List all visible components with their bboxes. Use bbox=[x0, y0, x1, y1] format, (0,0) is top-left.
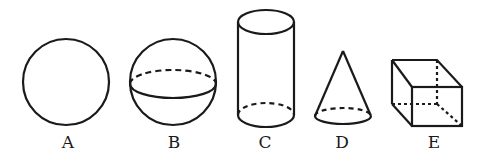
shape-b-sphere bbox=[130, 39, 216, 125]
shape-e-cube bbox=[392, 60, 462, 126]
shape-d-cone bbox=[315, 51, 371, 124]
label-a: A bbox=[53, 132, 83, 152]
label-b: B bbox=[159, 132, 189, 152]
shape-a-circle bbox=[23, 39, 109, 125]
label-d: D bbox=[327, 132, 357, 152]
label-c: C bbox=[250, 132, 280, 152]
label-e: E bbox=[419, 132, 449, 152]
shape-c-cylinder bbox=[238, 10, 294, 127]
